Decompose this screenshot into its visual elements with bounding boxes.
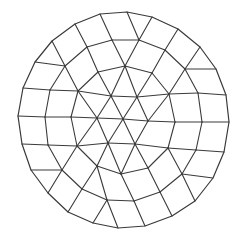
mesh-edge <box>198 93 226 95</box>
mesh-edge <box>125 66 137 97</box>
mesh-edge <box>169 94 175 122</box>
mesh-edge <box>137 97 148 121</box>
mesh-edge <box>185 47 200 69</box>
mesh-edge <box>82 189 107 200</box>
mesh-edge <box>198 93 202 122</box>
mesh-edge <box>48 170 62 193</box>
mesh-edge <box>135 144 148 168</box>
mesh-edge <box>121 174 134 201</box>
mesh-edge <box>111 96 123 119</box>
mesh-edge <box>77 118 97 146</box>
mesh-edge <box>18 116 45 117</box>
mesh-edge <box>71 117 97 118</box>
mesh-edge <box>148 94 169 121</box>
mesh-edge <box>77 143 108 146</box>
mesh-edge <box>185 69 198 93</box>
mesh-edge <box>160 192 172 216</box>
mesh-edge <box>168 148 196 150</box>
mesh-edge <box>97 118 123 119</box>
mesh-edge <box>52 41 65 66</box>
mesh-edge <box>108 119 123 143</box>
mesh-edge <box>152 73 169 94</box>
mesh-edge <box>112 40 125 66</box>
mesh-edge <box>22 144 48 145</box>
mesh-edge <box>139 17 152 40</box>
mesh-edge <box>87 47 98 72</box>
mesh-edge <box>97 166 121 174</box>
mesh-edge <box>45 117 48 145</box>
mesh-edge <box>121 168 148 174</box>
mesh-edge <box>45 90 50 117</box>
mesh-edge <box>97 143 108 166</box>
mesh-edge <box>108 143 121 174</box>
mesh-edge <box>148 168 160 192</box>
mesh-edge <box>48 145 77 146</box>
mesh-edge <box>48 145 62 170</box>
mesh-edge <box>97 166 107 200</box>
mesh-edge <box>35 62 65 66</box>
mesh-edge <box>134 201 145 226</box>
mesh-edge <box>125 66 152 73</box>
mesh-edge <box>93 200 107 223</box>
mesh-edge <box>78 91 97 118</box>
mesh-edge <box>75 24 87 47</box>
mesh-edge <box>182 174 213 178</box>
mesh-canvas <box>0 0 238 240</box>
mesh-edge <box>98 72 111 96</box>
mesh-edge <box>78 72 98 91</box>
mesh-edge <box>62 170 82 189</box>
mesh-edge <box>182 174 195 201</box>
mesh-edge <box>111 66 125 96</box>
mesh-edge <box>135 121 148 144</box>
mesh-edge <box>107 200 134 201</box>
mesh-edge <box>168 148 182 174</box>
mesh-edge <box>78 91 111 96</box>
mesh-edge <box>196 122 202 150</box>
mesh-edge <box>71 91 78 117</box>
mesh-edge <box>182 150 196 174</box>
mesh-edge <box>165 50 185 69</box>
mesh-edge <box>152 50 165 73</box>
mesh-edge <box>196 150 224 152</box>
mesh-edge <box>97 96 111 118</box>
disc-mesh-diagram <box>0 0 238 240</box>
mesh-edge <box>125 40 139 66</box>
mesh-edge <box>148 148 168 168</box>
mesh-edge <box>135 144 168 148</box>
mesh-edge <box>100 14 112 40</box>
mesh-edge <box>107 200 118 228</box>
mesh-edge <box>169 93 198 94</box>
mesh-edge <box>137 94 169 97</box>
mesh-edge <box>134 192 160 201</box>
mesh-edge <box>139 40 165 50</box>
mesh-edge <box>121 144 135 174</box>
mesh-edge <box>62 146 77 170</box>
mesh-edge <box>50 66 65 90</box>
mesh-edge <box>168 122 175 148</box>
mesh-edge <box>82 166 97 189</box>
mesh-edge <box>123 119 135 144</box>
mesh-edge <box>68 189 82 212</box>
mesh-edge <box>169 69 185 94</box>
mesh-edge <box>127 12 139 40</box>
mesh-edge <box>123 97 137 119</box>
mesh-edge <box>160 174 182 192</box>
mesh-edge <box>97 118 108 143</box>
mesh-edge <box>123 119 148 121</box>
mesh-edge <box>98 66 125 72</box>
mesh-edge <box>23 88 50 90</box>
mesh-edge <box>71 117 77 146</box>
mesh-edge <box>165 29 178 50</box>
mesh-edge <box>87 40 112 47</box>
mesh-edge <box>65 47 87 66</box>
mesh-edge <box>111 96 137 97</box>
mesh-edge <box>65 66 78 91</box>
mesh-edge <box>50 90 78 91</box>
mesh-edge <box>108 143 135 144</box>
mesh-edge <box>148 121 175 122</box>
mesh-edge <box>77 146 97 166</box>
mesh-edge <box>137 73 152 97</box>
